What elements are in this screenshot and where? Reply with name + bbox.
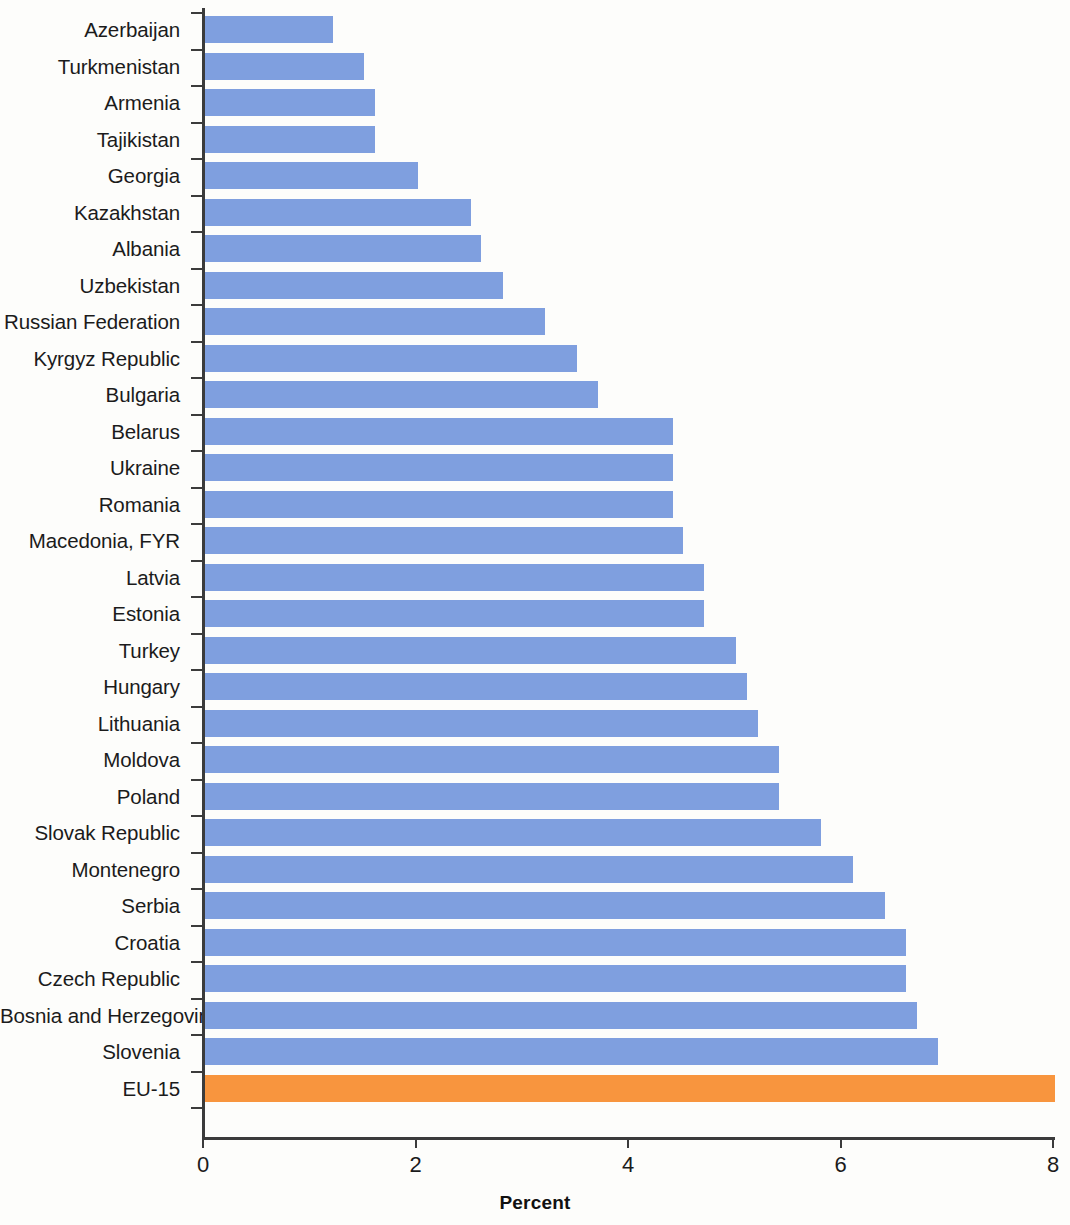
- y-axis-category-label: Russian Federation: [0, 304, 190, 341]
- bar: [205, 454, 673, 481]
- bar: [205, 929, 906, 956]
- x-axis-tick-label: 8: [1047, 1152, 1059, 1178]
- bar: [205, 126, 375, 153]
- y-axis-tick: [191, 523, 203, 525]
- y-axis-category-label: EU-15: [0, 1071, 190, 1108]
- bar: [205, 16, 333, 43]
- y-axis-tick: [191, 304, 203, 306]
- x-axis-title: Percent: [0, 1192, 1070, 1214]
- y-axis-category-label: Belarus: [0, 414, 190, 451]
- y-axis-category-label: Kyrgyz Republic: [0, 341, 190, 378]
- bar: [205, 491, 673, 518]
- y-axis-category-label: Lithuania: [0, 706, 190, 743]
- x-axis-tick: [840, 1137, 842, 1148]
- bar: [205, 1075, 1055, 1102]
- bar: [205, 783, 779, 810]
- x-axis-tick: [1052, 1137, 1054, 1148]
- y-axis-tick: [191, 888, 203, 890]
- y-axis-tick: [191, 377, 203, 379]
- bar: [205, 1038, 938, 1065]
- y-axis-category-label: Uzbekistan: [0, 268, 190, 305]
- y-axis-tick: [191, 706, 203, 708]
- y-axis-tick: [191, 742, 203, 744]
- y-axis-category-label: Moldova: [0, 742, 190, 779]
- y-axis-tick: [191, 852, 203, 854]
- x-axis-tick-label: 0: [197, 1152, 209, 1178]
- bar: [205, 418, 673, 445]
- bar: [205, 235, 481, 262]
- y-axis-tick: [191, 450, 203, 452]
- y-axis-tick: [191, 961, 203, 963]
- y-axis-tick: [191, 1071, 203, 1073]
- y-axis-category-label: Slovenia: [0, 1034, 190, 1071]
- bar: [205, 819, 821, 846]
- bar: [205, 892, 885, 919]
- y-axis-tick: [191, 414, 203, 416]
- bar: [205, 673, 747, 700]
- y-axis-category-label: Ukraine: [0, 450, 190, 487]
- y-axis-category-label: Turkmenistan: [0, 49, 190, 86]
- y-axis-tick: [191, 268, 203, 270]
- bar: [205, 162, 418, 189]
- y-axis-tick: [191, 122, 203, 124]
- y-axis-tick: [191, 560, 203, 562]
- bar: [205, 1002, 917, 1029]
- x-axis-tick-label: 4: [622, 1152, 634, 1178]
- y-axis-category-labels: AzerbaijanTurkmenistanArmeniaTajikistanG…: [0, 12, 190, 1107]
- x-axis-tick-label: 2: [409, 1152, 421, 1178]
- bar: [205, 746, 779, 773]
- y-axis-category-label: Tajikistan: [0, 122, 190, 159]
- bar: [205, 345, 577, 372]
- y-axis-tick: [191, 596, 203, 598]
- y-axis-category-label: Macedonia, FYR: [0, 523, 190, 560]
- bar: [205, 637, 736, 664]
- bar: [205, 272, 503, 299]
- bar: [205, 710, 758, 737]
- y-axis-category-label: Bosnia and Herzegovina: [0, 998, 190, 1035]
- y-axis-category-label: Azerbaijan: [0, 12, 190, 49]
- y-axis-tick: [191, 815, 203, 817]
- y-axis-tick: [191, 158, 203, 160]
- y-axis-category-label: Latvia: [0, 560, 190, 597]
- bar-chart: AzerbaijanTurkmenistanArmeniaTajikistanG…: [0, 0, 1070, 1225]
- y-axis-tick: [191, 341, 203, 343]
- x-axis-tick: [202, 1137, 204, 1148]
- y-axis-category-label: Poland: [0, 779, 190, 816]
- bar: [205, 381, 598, 408]
- y-axis-tick: [191, 195, 203, 197]
- y-axis-category-label: Kazakhstan: [0, 195, 190, 232]
- y-axis-category-label: Montenegro: [0, 852, 190, 889]
- y-axis-tick: [191, 669, 203, 671]
- y-axis-tick: [191, 231, 203, 233]
- y-axis-category-label: Hungary: [0, 669, 190, 706]
- y-axis-tick: [191, 487, 203, 489]
- bar: [205, 600, 704, 627]
- y-axis-tick: [191, 998, 203, 1000]
- y-axis-tick: [191, 633, 203, 635]
- y-axis-category-label: Estonia: [0, 596, 190, 633]
- bar: [205, 53, 364, 80]
- x-axis-tick: [415, 1137, 417, 1148]
- y-axis-category-label: Czech Republic: [0, 961, 190, 998]
- x-axis-tick-label: 6: [834, 1152, 846, 1178]
- bar: [205, 527, 683, 554]
- y-axis-category-label: Croatia: [0, 925, 190, 962]
- y-axis-category-label: Georgia: [0, 158, 190, 195]
- y-axis-tick: [191, 49, 203, 51]
- y-axis-tick: [191, 85, 203, 87]
- y-axis-category-label: Bulgaria: [0, 377, 190, 414]
- y-axis-category-label: Armenia: [0, 85, 190, 122]
- y-axis-tick: [191, 925, 203, 927]
- bar: [205, 564, 704, 591]
- bar: [205, 965, 906, 992]
- y-axis-tick: [191, 1034, 203, 1036]
- y-axis-category-label: Slovak Republic: [0, 815, 190, 852]
- y-axis-tick: [191, 1107, 203, 1109]
- y-axis-tick: [191, 779, 203, 781]
- y-axis-category-label: Albania: [0, 231, 190, 268]
- y-axis-category-label: Romania: [0, 487, 190, 524]
- bar: [205, 89, 375, 116]
- bar: [205, 856, 853, 883]
- plot-area: AzerbaijanTurkmenistanArmeniaTajikistanG…: [0, 0, 1070, 1225]
- y-axis-tick: [191, 12, 203, 14]
